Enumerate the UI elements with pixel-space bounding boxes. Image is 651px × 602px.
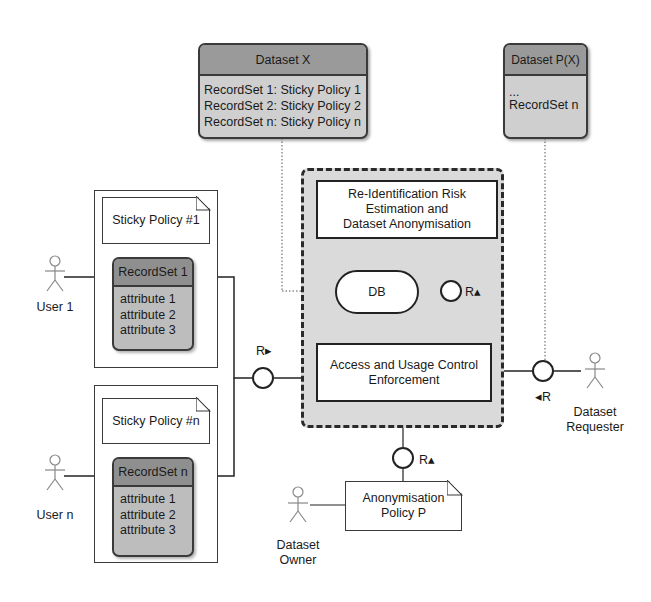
sticky-policy-n-note: Sticky Policy #n [102,398,210,444]
dataset-px-title: Dataset P(X) [505,45,586,76]
user-1-actor-icon [40,255,70,295]
requester-label-line: Requester [560,420,630,435]
dataset-x-row: RecordSet 1: Sticky Policy 1 [204,82,362,98]
user-1-label: User 1 [20,300,90,315]
sticky-policy-1-note: Sticky Policy #1 [102,197,210,244]
requester-label-line: Dataset [560,405,630,420]
note-fold-icon [196,196,211,211]
dataset-x-box: Dataset X RecordSet 1: Sticky Policy 1 R… [198,43,368,139]
dataset-owner-label: Dataset Owner [263,538,333,568]
attribute-item: attribute 3 [120,523,186,539]
dataset-requester-label: Dataset Requester [560,405,630,435]
attribute-item: attribute 2 [120,508,186,524]
recordset-1-box: RecordSet 1 attribute 1 attribute 2 attr… [112,257,194,351]
anonymisation-policy-note: Anonymisation Policy P [345,481,462,531]
policy-label-line: Policy P [363,506,445,521]
reid-line: Re-Identification Risk [343,187,471,202]
dataset-px-row: RecordSet n [509,99,582,112]
reid-anonymisation-component: Re-Identification Risk Estimation and Da… [316,180,498,239]
user-n-actor-icon [40,454,70,494]
reid-line: Estimation and [343,202,471,217]
dataset-px-box: Dataset P(X) ... RecordSet n [503,43,588,139]
owner-label-line: Dataset [263,538,333,553]
note-fold-icon [196,397,211,412]
recordset-n-box: RecordSet n attribute 1 attribute 2 attr… [112,457,194,557]
user-n-label: User n [20,508,90,523]
recordset-1-title: RecordSet 1 [114,259,192,287]
dataset-requester-actor-icon [580,352,610,392]
recordset-n-title: RecordSet n [114,459,192,487]
owner-interface-icon [392,447,416,471]
owner-label-line: Owner [263,553,333,568]
attribute-item: attribute 1 [120,292,186,308]
note-fold-icon [447,480,463,496]
left-interface-label: R▸ [256,343,272,358]
sticky-policy-1-label: Sticky Policy #1 [112,213,200,228]
dataset-x-row: RecordSet 2: Sticky Policy 2 [204,98,362,114]
requester-interface-icon [532,360,556,384]
access-line: Access and Usage Control [330,358,478,373]
attribute-item: attribute 3 [120,323,186,339]
db-storage: DB [335,270,419,314]
dataset-x-title: Dataset X [200,45,366,76]
access-usage-control-component: Access and Usage Control Enforcement [316,343,492,402]
inner-interface-icon [440,280,464,304]
inner-interface-label: R▴ [465,284,481,299]
reid-line: Dataset Anonymisation [343,217,471,232]
requester-interface-label: ◂R [535,389,551,404]
attribute-item: attribute 2 [120,308,186,324]
policy-label-line: Anonymisation [363,491,445,506]
access-line: Enforcement [330,373,478,388]
owner-interface-label: R▴ [419,452,435,467]
dataset-x-row: RecordSet n: Sticky Policy n [204,114,362,130]
db-label: DB [368,285,385,299]
dataset-owner-actor-icon [283,486,313,526]
left-interface-icon [252,367,276,391]
attribute-item: attribute 1 [120,492,186,508]
sticky-policy-n-label: Sticky Policy #n [112,414,200,429]
